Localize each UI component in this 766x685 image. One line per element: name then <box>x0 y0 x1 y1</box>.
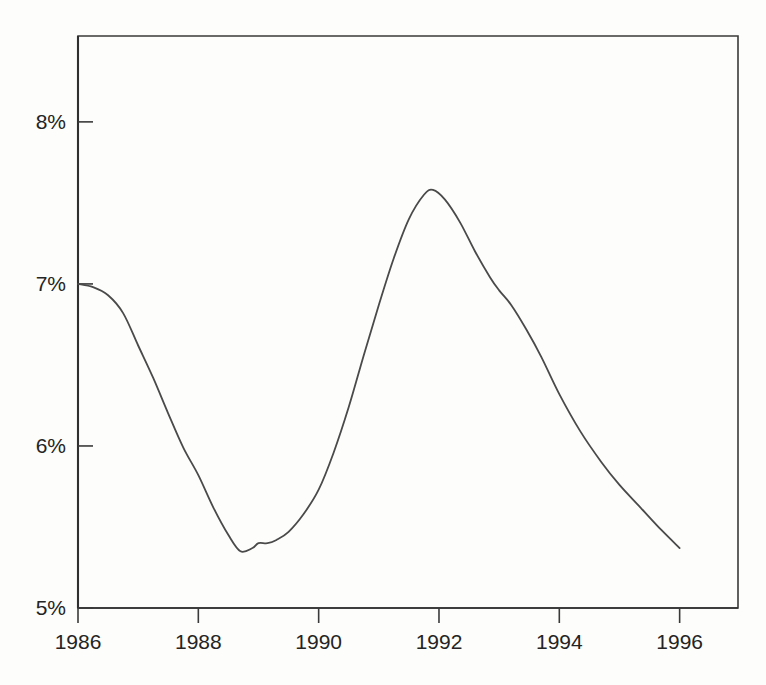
x-axis-tick-label: 1992 <box>416 630 463 654</box>
data-series-group <box>78 190 680 552</box>
x-axis-tick-label: 1996 <box>656 630 703 654</box>
y-axis-tick-label: 5% <box>8 596 66 620</box>
chart-plot-svg <box>0 0 766 685</box>
series-line-rate <box>78 190 680 552</box>
y-axis-tick-label: 7% <box>8 272 66 296</box>
chart-figure: 5%6%7%8% 198619881990199219941996 <box>0 0 766 685</box>
y-axis-tick-label: 8% <box>8 110 66 134</box>
x-axis-tick-label: 1986 <box>55 630 102 654</box>
x-axis-tick-label: 1994 <box>536 630 583 654</box>
x-axis-tick-label: 1988 <box>175 630 222 654</box>
y-axis-tick-label: 6% <box>8 434 66 458</box>
x-axis-tick-label: 1990 <box>295 630 342 654</box>
y-axis-ticks <box>78 122 93 608</box>
x-axis-ticks <box>78 608 680 623</box>
plot-frame <box>78 36 738 608</box>
